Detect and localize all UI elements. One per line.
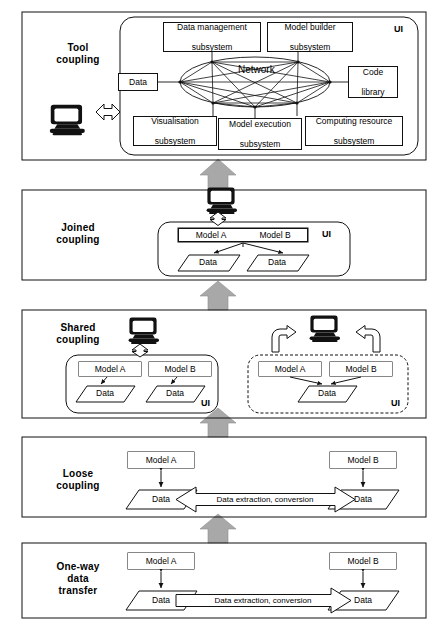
node-line1: Computing resource bbox=[314, 116, 395, 126]
panel-label-oneway-transfer: One-way data transfer bbox=[32, 561, 124, 597]
panel-label-joined-coupling: Joined coupling bbox=[32, 222, 124, 246]
model-a-box-shared-right: Model A bbox=[259, 362, 321, 376]
model-b-box-loose: Model B bbox=[330, 452, 396, 468]
data-label-joined-left: Data bbox=[186, 257, 230, 267]
data-label-loose-left: Data bbox=[137, 494, 185, 504]
model-b-label: Model B bbox=[259, 230, 290, 240]
node-data: Data bbox=[118, 73, 158, 91]
data-label-loose-right: Data bbox=[339, 494, 387, 504]
node-line2: subsystem bbox=[175, 42, 249, 52]
ui-label-shared-right: UI bbox=[391, 398, 400, 408]
panel-label-line1: Tool bbox=[32, 42, 124, 54]
panel-label-line1: Shared bbox=[32, 322, 124, 334]
node-line2: subsystem bbox=[227, 139, 293, 149]
model-a-label: Model A bbox=[146, 455, 177, 465]
model-b-box-shared-left: Model B bbox=[149, 362, 211, 376]
model-a-label: Model A bbox=[95, 364, 126, 374]
panel-label-line1: One-way bbox=[32, 561, 124, 573]
model-b-label: Model B bbox=[347, 455, 378, 465]
panel-label-line1: Joined bbox=[32, 222, 124, 234]
computer-icon bbox=[50, 105, 85, 135]
node-model-builder-subsystem: Model buildersubsystem bbox=[267, 22, 353, 52]
flow-label-oneway: Data extraction, conversion bbox=[196, 596, 330, 605]
node-line2: library bbox=[359, 87, 386, 97]
panel-label-line2: coupling bbox=[32, 334, 124, 346]
diagram-canvas: Tool coupling UI Data managementsubsyste… bbox=[0, 0, 436, 630]
computer-icon bbox=[310, 316, 340, 342]
model-b-label: Model B bbox=[347, 556, 378, 566]
model-b-label: Model B bbox=[345, 364, 376, 374]
flow-label-loose: Data extraction, conversion bbox=[198, 495, 332, 504]
model-b-box-joined: Model B bbox=[243, 228, 308, 242]
node-line1: Model builder bbox=[282, 22, 337, 32]
node-data-management-subsystem: Data managementsubsystem bbox=[163, 22, 261, 52]
data-label-shared-left-a: Data bbox=[83, 388, 127, 398]
panel-label-tool-coupling: Tool coupling bbox=[32, 42, 124, 66]
node-line1: Visualisation bbox=[149, 116, 201, 126]
model-b-label: Model B bbox=[164, 364, 195, 374]
panel-label-line2: coupling bbox=[32, 234, 124, 246]
model-b-box-shared-right: Model B bbox=[330, 362, 392, 376]
panel-label-line1: Loose bbox=[32, 468, 124, 480]
node-model-execution-subsystem: Model executionsubsystem bbox=[218, 118, 302, 150]
model-a-box-loose: Model A bbox=[128, 452, 194, 468]
data-label-oneway-left: Data bbox=[137, 595, 185, 605]
computer-icon bbox=[207, 188, 237, 214]
node-line1: Data management bbox=[175, 22, 249, 32]
model-a-label: Model A bbox=[196, 230, 227, 240]
data-label-joined-right: Data bbox=[255, 257, 299, 267]
panel-label-line2: coupling bbox=[32, 54, 124, 66]
node-line2: subsystem bbox=[314, 136, 395, 146]
data-label-oneway-right: Data bbox=[339, 595, 387, 605]
data-label-shared-right: Data bbox=[305, 388, 349, 398]
node-line1: Model execution bbox=[227, 119, 293, 129]
network-label: Network bbox=[238, 64, 275, 75]
model-b-box-oneway: Model B bbox=[330, 553, 396, 569]
model-a-box-shared-left: Model A bbox=[79, 362, 141, 376]
ui-label-tool: UI bbox=[394, 24, 403, 34]
ui-label-shared-left: UI bbox=[201, 398, 210, 408]
panel-label-shared-coupling: Shared coupling bbox=[32, 322, 124, 346]
panel-label-loose-coupling: Loose coupling bbox=[32, 468, 124, 492]
double-headed-horizontal-arrow-icon bbox=[96, 104, 120, 120]
model-a-label: Model A bbox=[146, 556, 177, 566]
node-code-library: Codelibrary bbox=[348, 66, 398, 98]
node-line2: subsystem bbox=[149, 136, 201, 146]
ui-label-joined: UI bbox=[322, 229, 331, 239]
model-a-box-joined: Model A bbox=[178, 228, 243, 242]
node-computing-resource-subsystem: Computing resourcesubsystem bbox=[305, 116, 403, 146]
node-line1: Data bbox=[127, 77, 149, 87]
data-label-shared-left-b: Data bbox=[153, 388, 197, 398]
computer-icon bbox=[129, 318, 159, 344]
model-a-label: Model A bbox=[275, 364, 306, 374]
node-line1: Code bbox=[359, 67, 386, 77]
node-visualisation-subsystem: Visualisationsubsystem bbox=[133, 116, 217, 146]
panel-label-line3: transfer bbox=[32, 585, 124, 597]
panel-label-line2: data bbox=[32, 573, 124, 585]
model-a-box-oneway: Model A bbox=[128, 553, 194, 569]
node-line2: subsystem bbox=[282, 42, 337, 52]
panel-label-line2: coupling bbox=[32, 480, 124, 492]
